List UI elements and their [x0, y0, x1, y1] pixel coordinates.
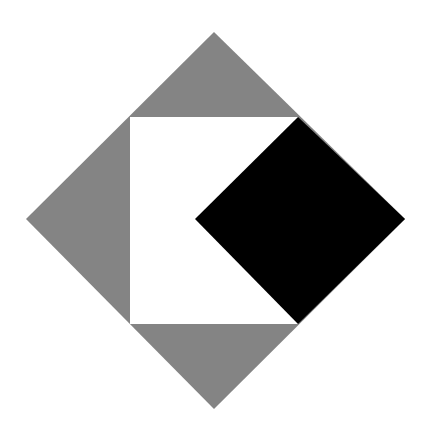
- logo-canvas: [0, 0, 428, 439]
